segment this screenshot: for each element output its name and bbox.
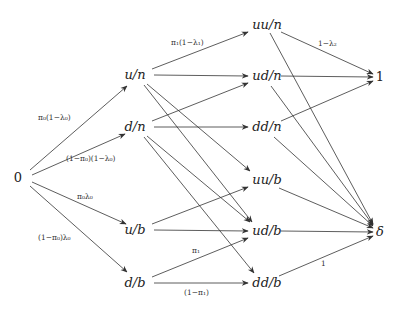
edge-label-un-to-uun: π₁(1−λ₁): [171, 38, 204, 47]
edge-arrow-ddn-to-one: [281, 81, 373, 121]
edge-arrow-db-to-udb: [152, 238, 248, 277]
edge-arrow-n0-to-ub: [32, 182, 126, 224]
edge-label-n0-to-dn: (1−π₀)(1−λ₀): [66, 154, 116, 163]
node-udb: ud/b: [252, 223, 281, 238]
edge-arrow-un-to-udb: [144, 85, 252, 222]
edge-arrow-ub-to-uub: [152, 187, 248, 224]
edge-arrow-un-to-uub: [147, 84, 250, 171]
edge-arrow-dn-to-udb: [147, 136, 250, 222]
node-ddn: dd/n: [252, 119, 281, 134]
node-un: u/n: [124, 67, 145, 82]
edge-label-db-to-ddb: (1−π₁): [184, 288, 209, 297]
edge-arrow-udb-to-delta: [281, 231, 373, 232]
edge-arrow-ddb-to-delta: [279, 236, 373, 276]
edge-arrow-udn-to-one: [281, 76, 373, 77]
node-one: 1: [376, 69, 384, 84]
edge-arrow-un-to-udn: [154, 75, 248, 76]
edge-label-uun-to-one: 1−λ₂: [318, 39, 337, 48]
node-udn: ud/n: [252, 68, 281, 83]
node-n0: 0: [14, 170, 22, 185]
edge-arrow-dn-to-udn: [152, 83, 248, 121]
edge-arrow-uun-to-delta: [270, 33, 373, 224]
edge-arrow-ub-to-udb: [154, 230, 248, 231]
node-dn: d/n: [124, 119, 145, 134]
node-uub: uu/b: [252, 172, 281, 187]
edge-arrow-udn-to-delta: [271, 86, 373, 225]
edge-arrow-uub-to-delta: [279, 188, 373, 228]
edge-label-ddb-to-delta: 1: [321, 259, 326, 268]
node-ub: u/b: [124, 222, 145, 237]
edge-arrow-ddn-to-delta: [274, 137, 373, 226]
node-uun: uu/n: [252, 17, 282, 32]
state-transition-diagram: π₀(1−λ₀)(1−π₀)(1−λ₀)π₀λ₀(1−π₀)λ₀π₁(1−λ₁)…: [0, 0, 405, 312]
node-db: d/b: [124, 275, 145, 290]
edge-label-db-to-udb: π₁: [192, 246, 200, 255]
edge-label-n0-to-ub: π₀λ₀: [77, 192, 93, 201]
edge-label-n0-to-db: (1−π₀)λ₀: [38, 233, 71, 242]
node-delta: δ: [376, 224, 384, 239]
edge-labels-layer: π₀(1−λ₀)(1−π₀)(1−λ₀)π₀λ₀(1−π₀)λ₀π₁(1−λ₁)…: [38, 38, 337, 297]
edge-label-n0-to-un: π₀(1−λ₀): [38, 113, 71, 122]
node-ddb: dd/b: [252, 275, 281, 290]
